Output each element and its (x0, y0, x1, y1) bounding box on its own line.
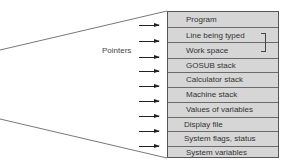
pointer-arrow-icon (139, 57, 159, 58)
pointer-arrow-icon (139, 131, 159, 132)
bracket-icon (261, 33, 266, 52)
memory-area-label: Values of variables (186, 105, 253, 114)
memory-area-system-flags: System flags, status (168, 132, 278, 147)
pointer-arrow-icon (139, 101, 159, 102)
pointer-arrow-icon (139, 116, 159, 117)
memory-area-system-variables: System variables (168, 147, 278, 159)
pointer-arrow-icon (139, 71, 159, 72)
memory-area-label: Machine stack (186, 90, 237, 99)
memory-area-display-file: Display file (168, 118, 278, 133)
pointer-arrow-icon (139, 41, 159, 42)
pointer-arrow-icon (139, 146, 159, 147)
memory-area-label: Program (186, 15, 217, 24)
memory-area-gosub-stack: GOSUB stack (168, 59, 278, 74)
memory-area-label: Display file (184, 120, 223, 129)
memory-area-label: Calculator stack (186, 75, 243, 84)
top-expansion-line (0, 11, 167, 50)
pointer-arrow-icon (139, 86, 159, 87)
memory-area-program: Program (168, 12, 278, 28)
memory-area-label: System variables (186, 148, 247, 157)
memory-area-values-of-variables: Values of variables (168, 103, 278, 118)
memory-area-label: GOSUB stack (186, 61, 236, 70)
memory-area-label: System flags, status (184, 134, 256, 143)
pointer-arrow-icon (139, 25, 159, 26)
memory-area-label: Line being typed (186, 31, 245, 40)
pointers-label: Pointers (102, 46, 131, 55)
memory-map-diagram: Pointers Program Line being typed Work s… (0, 0, 285, 167)
memory-area-calculator-stack: Calculator stack (168, 73, 278, 88)
memory-area-machine-stack: Machine stack (168, 88, 278, 103)
memory-area-label: Work space (186, 46, 228, 55)
bottom-expansion-line (0, 119, 167, 158)
